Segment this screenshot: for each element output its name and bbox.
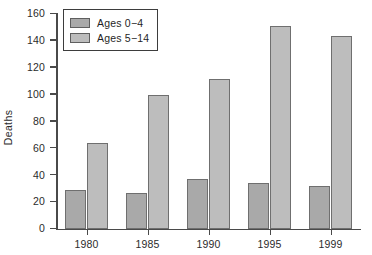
y-tick-label: 20 [33,195,45,207]
y-tick-label: 100 [27,88,45,100]
x-tick [270,229,271,235]
legend-item: Ages 0−4 [70,15,149,30]
x-tick [148,229,149,235]
bar [248,183,269,229]
x-tick [87,229,88,235]
legend-swatch [70,33,90,43]
y-tick-label: 60 [33,142,45,154]
bar-chart: Deaths 020406080100120140160 19801985199… [0,0,372,255]
bar [65,190,86,229]
bar [126,193,147,229]
y-tick-label: 40 [33,169,45,181]
legend-label: Ages 5−14 [97,32,149,44]
y-axis-label: Deaths [0,0,16,255]
x-tick [209,229,210,235]
y-tick-label: 140 [27,34,45,46]
y-tick: 140 [50,39,56,40]
x-tick-label: 1980 [74,238,98,250]
x-tick [331,229,332,235]
x-tick-label: 1985 [135,238,159,250]
y-tick: 20 [50,201,56,202]
bar [148,95,169,229]
bar [331,36,352,230]
y-tick: 160 [50,13,56,14]
legend-swatch [70,18,90,28]
y-tick: 80 [50,120,56,121]
y-tick-label: 120 [27,61,45,73]
y-tick: 100 [50,93,56,94]
x-tick-label: 1995 [257,238,281,250]
y-tick: 60 [50,147,56,148]
bar [309,186,330,229]
legend-item: Ages 5−14 [70,30,149,45]
x-tick-label: 1990 [196,238,220,250]
legend-label: Ages 0−4 [97,17,143,29]
y-tick-label: 80 [33,115,45,127]
bar [187,179,208,229]
bar [87,143,108,229]
x-tick-label: 1999 [318,238,342,250]
y-tick-label: 160 [27,7,45,19]
y-tick: 120 [50,66,56,67]
bar [209,79,230,230]
bar [270,26,291,229]
y-tick-label: 0 [39,222,45,234]
y-tick: 0 [50,228,56,229]
y-tick: 40 [50,174,56,175]
legend: Ages 0−4Ages 5−14 [63,9,158,51]
